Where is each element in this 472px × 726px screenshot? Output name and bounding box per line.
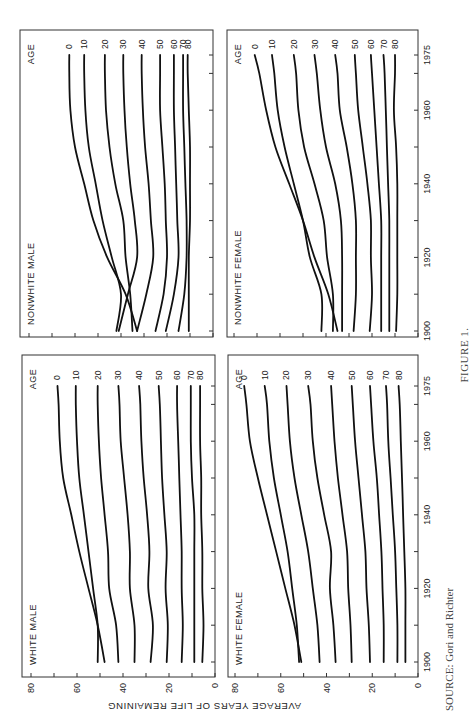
- chart-panels: 020406080WHITE MALEAGE01020304050607080N…: [20, 30, 432, 693]
- age-label: 20: [100, 39, 110, 49]
- age-curve-50: [156, 55, 168, 331]
- age-curve-60: [177, 386, 183, 662]
- age-curve-70: [386, 386, 397, 662]
- year-tick-label: 1920: [422, 578, 432, 598]
- age-curve-0: [244, 386, 301, 662]
- year-tick-label: 1920: [422, 247, 432, 267]
- age-label: 10: [267, 39, 277, 49]
- panel-nonwhite-female: 19001920194019601975NONWHITE FEMALEAGE01…: [227, 30, 432, 341]
- age-label: 40: [134, 370, 144, 380]
- age-curve-60: [166, 55, 179, 331]
- age-curve-30: [119, 55, 138, 331]
- year-tick-label: 1940: [422, 174, 432, 194]
- panel-title: NONWHITE FEMALE: [233, 230, 243, 325]
- figure-1: 020406080WHITE MALEAGE01020304050607080N…: [0, 0, 472, 726]
- age-label: 30: [303, 370, 313, 380]
- year-tick-label: 1975: [422, 45, 432, 65]
- age-curve-40: [335, 55, 356, 331]
- age-curve-70: [179, 55, 187, 331]
- age-label: 0: [250, 44, 260, 49]
- panel-white-female: 02040608019001920194019601975WHITE FEMAL…: [228, 355, 432, 693]
- age-label: 70: [379, 39, 389, 49]
- value-tick-label: 80: [26, 683, 36, 693]
- age-label: 80: [183, 39, 193, 49]
- figure-caption: FIGURE 1.: [458, 327, 470, 382]
- age-label: 30: [310, 39, 320, 49]
- age-curve-80: [188, 55, 190, 331]
- source-note: SOURCE: Gori and Richter: [443, 588, 455, 711]
- age-label: 80: [394, 370, 404, 380]
- age-label: 20: [281, 370, 291, 380]
- age-label: 40: [330, 39, 340, 49]
- value-tick-label: 0: [413, 683, 423, 688]
- panel-title: WHITE FEMALE: [234, 591, 244, 665]
- age-label: 50: [154, 370, 164, 380]
- age-label: 40: [137, 39, 147, 49]
- age-label: 30: [118, 39, 128, 49]
- age-curve-80: [394, 55, 398, 331]
- age-label: 10: [71, 370, 81, 380]
- age-label: 0: [52, 375, 62, 380]
- y-axis-label: AVERAGE YEARS OF LIFE REMAINING: [107, 701, 301, 712]
- age-label: 60: [365, 370, 375, 380]
- value-tick-label: 20: [164, 683, 174, 693]
- age-curve-40: [331, 386, 352, 662]
- age-curve-80: [200, 386, 203, 662]
- age-curve-50: [355, 55, 372, 331]
- value-tick-label: 80: [230, 683, 240, 693]
- value-tick-label: 60: [72, 683, 82, 693]
- year-tick-label: 1940: [422, 505, 432, 525]
- year-tick-label: 1900: [422, 321, 432, 341]
- year-tick-label: 1960: [422, 431, 432, 451]
- age-label: 30: [113, 370, 123, 380]
- age-curve-30: [308, 386, 335, 662]
- age-label: 70: [381, 370, 391, 380]
- age-label: 0: [64, 44, 74, 49]
- age-legend-title: AGE: [233, 44, 243, 65]
- age-label: 40: [326, 370, 336, 380]
- value-tick-label: 40: [322, 683, 332, 693]
- year-tick-label: 1975: [422, 376, 432, 396]
- age-curve-60: [370, 386, 384, 662]
- age-curve-20: [287, 386, 320, 662]
- age-curve-50: [159, 386, 168, 662]
- age-curve-10: [76, 386, 98, 662]
- panel-title: WHITE MALE: [28, 604, 38, 665]
- age-curve-80: [399, 386, 406, 662]
- age-label: 0: [239, 375, 249, 380]
- age-label: 50: [347, 370, 357, 380]
- panel-frame: [228, 355, 418, 677]
- age-label: 60: [172, 370, 182, 380]
- value-tick-label: 0: [210, 683, 220, 688]
- year-tick-label: 1960: [422, 100, 432, 120]
- age-curve-50: [352, 386, 370, 662]
- age-label: 50: [350, 39, 360, 49]
- age-label: 80: [195, 370, 205, 380]
- age-curve-10: [84, 55, 121, 331]
- age-label: 20: [93, 370, 103, 380]
- age-curve-20: [98, 386, 119, 662]
- age-label: 60: [366, 39, 376, 49]
- panel-white-male: 020406080WHITE MALEAGE01020304050607080: [22, 355, 220, 693]
- age-label: 50: [155, 39, 165, 49]
- panel-nonwhite-male: NONWHITE MALEAGE01020304050607080: [20, 30, 213, 337]
- age-curve-70: [191, 386, 195, 662]
- age-curve-70: [384, 55, 390, 331]
- year-tick-label: 1900: [422, 652, 432, 672]
- age-curve-40: [139, 386, 153, 662]
- age-legend-title: AGE: [26, 44, 36, 65]
- age-curve-30: [118, 386, 134, 662]
- age-label: 80: [390, 39, 400, 49]
- panel-title: NONWHITE MALE: [26, 242, 36, 325]
- age-label: 20: [289, 39, 299, 49]
- age-label: 10: [79, 39, 89, 49]
- age-legend-title: AGE: [28, 369, 38, 390]
- age-label: 10: [260, 370, 270, 380]
- age-curve-40: [137, 55, 153, 331]
- value-tick-label: 60: [276, 683, 286, 693]
- panel-frame: [22, 355, 215, 677]
- value-tick-label: 40: [118, 683, 128, 693]
- age-curve-0: [69, 55, 137, 331]
- value-tick-label: 20: [367, 683, 377, 693]
